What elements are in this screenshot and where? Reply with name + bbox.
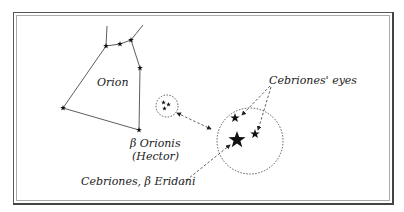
label-beta-orionis: β Orionis	[130, 138, 181, 150]
label-hector: (Hector)	[132, 151, 179, 163]
label-cebriones-eyes: Cebriones' eyes	[269, 75, 357, 87]
cluster-circle-large	[217, 108, 283, 174]
label-orion: Orion	[97, 77, 129, 89]
cluster-circle-small	[156, 95, 178, 117]
label-cebriones-beta-eridani: Cebriones, β Eridani	[81, 176, 195, 188]
constellation-diagram	[0, 0, 404, 212]
